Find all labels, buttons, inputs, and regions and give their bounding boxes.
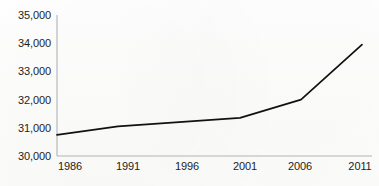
plot-area: [0, 0, 379, 186]
data-line-series-1: [57, 45, 362, 135]
line-chart: 35,000 34,000 33,000 32,000 31,000 30,00…: [0, 0, 379, 186]
